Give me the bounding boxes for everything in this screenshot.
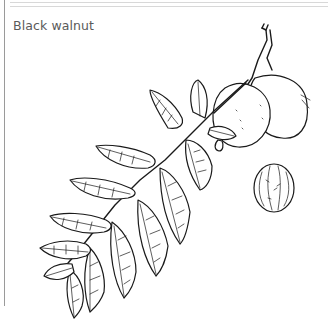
- walnut-nut-icon: [254, 164, 294, 212]
- compound-leaf-icon: [67, 80, 236, 318]
- black-walnut-illustration: [0, 0, 328, 327]
